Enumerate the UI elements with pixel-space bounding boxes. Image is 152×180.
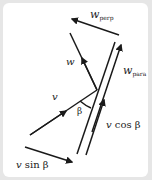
label-v: v [52, 92, 58, 102]
label-beta: β [77, 107, 82, 116]
vector-diagram [0, 0, 152, 180]
label-w: w [66, 57, 75, 67]
v-cos-beta-arrow [86, 100, 104, 155]
label-w-perp: wperp [90, 9, 114, 21]
w-perp-arrow [72, 19, 119, 35]
label-w-para: wpara [123, 65, 146, 77]
label-v-sin-beta: v sin β [16, 160, 49, 170]
label-v-cos-beta: v cos β [106, 120, 141, 130]
